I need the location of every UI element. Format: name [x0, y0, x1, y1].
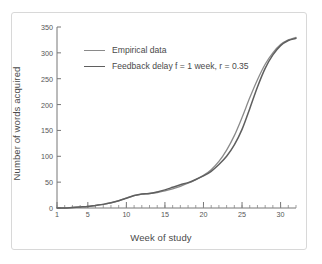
legend-entry: Feedback delay f = 1 week, r = 0.35: [84, 58, 249, 74]
x-axis-tick-label: 1: [47, 210, 67, 219]
y-axis-title: Number of words acquired: [11, 44, 22, 204]
line-chart: 050100150200250300350 151015202530 Numbe…: [0, 0, 322, 264]
legend-entry: Empirical data: [84, 42, 249, 58]
y-axis-tick-label: 350: [31, 23, 53, 32]
x-axis-tick-label: 5: [78, 210, 98, 219]
legend-label: Empirical data: [112, 45, 166, 55]
y-axis-ticks: [57, 27, 61, 208]
x-axis-ticks: [57, 202, 281, 208]
y-axis-tick-label: 300: [31, 49, 53, 58]
legend-color-swatch: [84, 66, 105, 67]
x-axis-tick-label: 20: [193, 210, 213, 219]
chart-legend: Empirical dataFeedback delay f = 1 week,…: [84, 42, 249, 74]
legend-label: Feedback delay f = 1 week, r = 0.35: [112, 61, 249, 71]
y-axis-tick-label: 50: [31, 178, 53, 187]
y-axis-tick-label: 150: [31, 126, 53, 135]
y-axis-tick-label: 100: [31, 152, 53, 161]
x-axis-tick-label: 15: [155, 210, 175, 219]
x-axis-title: Week of study: [0, 232, 322, 243]
y-axis-tick-label: 250: [31, 75, 53, 84]
x-axis-tick-label: 25: [232, 210, 252, 219]
x-axis-tick-label: 10: [116, 210, 136, 219]
y-axis-tick-label: 200: [31, 101, 53, 110]
x-axis-tick-label: 30: [271, 210, 291, 219]
legend-color-swatch: [84, 50, 105, 51]
